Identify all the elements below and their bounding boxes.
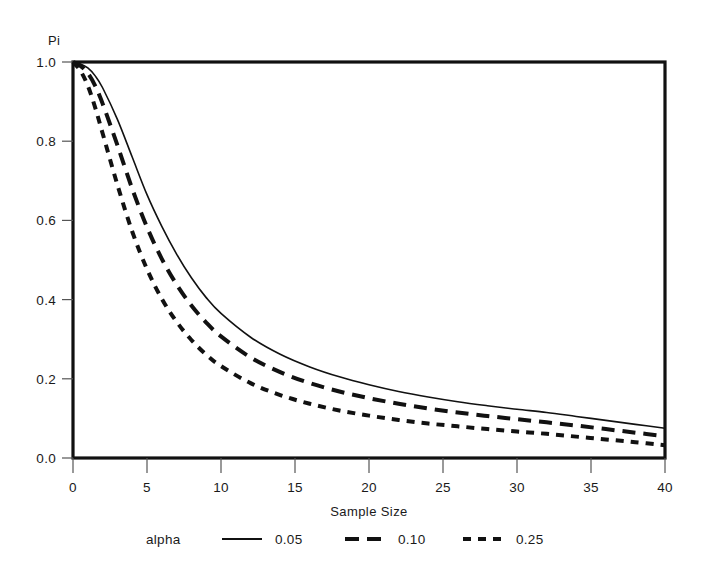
x-tick-label: 40 — [657, 480, 673, 495]
legend-label-2: 0.25 — [516, 532, 543, 547]
y-axis-title: Pi — [48, 33, 60, 48]
x-tick-label: 35 — [583, 480, 599, 495]
y-tick-label: 0.4 — [36, 293, 56, 308]
y-tick-label: 0.8 — [36, 134, 56, 149]
x-tick-label: 20 — [361, 480, 377, 495]
x-tick-label: 5 — [143, 480, 151, 495]
x-tick-label: 0 — [69, 480, 77, 495]
x-tick-label: 10 — [213, 480, 229, 495]
legend-title: alpha — [146, 532, 181, 547]
x-axis-title: Sample Size — [330, 504, 407, 519]
y-tick-label: 0.6 — [36, 213, 56, 228]
x-tick-label: 30 — [509, 480, 525, 495]
x-tick-label: 15 — [287, 480, 303, 495]
y-tick-label: 0.0 — [36, 451, 56, 466]
y-tick-label: 0.2 — [36, 372, 56, 387]
legend-label-1: 0.10 — [398, 532, 425, 547]
legend-label-0: 0.05 — [275, 532, 302, 547]
x-tick-label: 25 — [435, 480, 451, 495]
y-tick-label: 1.0 — [36, 55, 56, 70]
pi-vs-sample-size-chart: Pi 0.0 0.2 0.4 0.6 0.8 1.0 0 5 10 15 20 … — [0, 0, 704, 569]
